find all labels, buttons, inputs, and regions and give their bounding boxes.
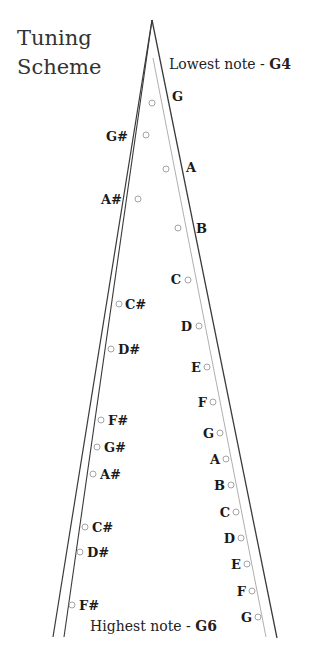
note-label: C# — [125, 297, 146, 312]
tuning-pin-d-sharp: D# — [108, 342, 140, 357]
tuning-pin-c: C — [171, 272, 191, 287]
tuning-pin-c-sharp: C# — [116, 297, 146, 312]
lowest-note-value: G4 — [269, 56, 291, 72]
tuning-pin-c: C — [220, 505, 239, 520]
tuning-pin-c-sharp: C# — [82, 520, 113, 535]
tuning-pin-a-sharp: A# — [100, 192, 141, 207]
note-label: F — [198, 395, 208, 410]
highest-note-caption: Highest note - G6 — [90, 618, 217, 634]
tuning-pin-f-sharp: F# — [98, 413, 128, 428]
pin-circle-icon — [82, 524, 88, 530]
pin-circle-icon — [228, 482, 234, 488]
note-label: D — [181, 319, 192, 334]
tuning-pin-b: B — [214, 478, 234, 493]
title-line-1: Tuning — [17, 26, 92, 50]
right-inner-string-line — [153, 58, 266, 637]
pin-circle-icon — [69, 602, 75, 608]
highest-note-value: G6 — [195, 618, 217, 634]
note-label: F# — [108, 413, 128, 428]
note-label: A — [185, 160, 197, 175]
pin-circle-icon — [185, 277, 191, 283]
note-label: F# — [79, 598, 99, 613]
note-label: A# — [100, 192, 122, 207]
lowest-note-caption: Lowest note - G4 — [169, 56, 291, 72]
tuning-pin-a: A — [163, 160, 197, 175]
tuning-scheme-diagram: Tuning Scheme Lowest note - G4 GG#AA#BCC… — [0, 0, 315, 659]
pin-circle-icon — [244, 561, 250, 567]
pin-circle-icon — [217, 430, 223, 436]
pin-circle-icon — [233, 509, 239, 515]
note-label: D# — [87, 545, 109, 560]
pin-circle-icon — [116, 301, 122, 307]
tuning-pin-e: E — [191, 360, 210, 375]
tuning-pin-a: A — [209, 452, 229, 467]
note-label: G# — [106, 129, 128, 144]
note-label: A — [209, 452, 221, 467]
tuning-pin-e: E — [231, 557, 250, 572]
tuning-pin-f: F — [198, 395, 216, 410]
tuning-pin-g: G — [203, 426, 223, 441]
pin-circle-icon — [223, 456, 229, 462]
note-label: G# — [104, 440, 126, 455]
highest-note-prefix: Highest note - — [90, 618, 195, 634]
pin-circle-icon — [77, 549, 83, 555]
note-label: C — [171, 272, 181, 287]
note-label: B — [196, 221, 207, 236]
pin-circle-icon — [108, 346, 114, 352]
tuning-pin-d: D — [224, 531, 244, 546]
note-label: E — [191, 360, 201, 375]
tuning-pin-a-sharp: A# — [90, 467, 121, 482]
lowest-note-prefix: Lowest note - — [169, 56, 269, 72]
tuning-pin-d: D — [181, 319, 202, 334]
pin-circle-icon — [143, 132, 149, 138]
pin-circle-icon — [255, 614, 261, 620]
tuning-pin-f: F — [237, 584, 255, 599]
pin-circle-icon — [210, 399, 216, 405]
tuning-pin-g-sharp: G# — [106, 129, 149, 144]
pin-circle-icon — [135, 196, 141, 202]
note-label: C# — [92, 520, 113, 535]
pin-circle-icon — [90, 471, 96, 477]
pin-circle-icon — [249, 588, 255, 594]
pin-circle-icon — [196, 323, 202, 329]
note-label: D# — [118, 342, 140, 357]
pin-circle-icon — [175, 225, 181, 231]
tuning-pin-d-sharp: D# — [77, 545, 109, 560]
right-outer-string-line — [152, 20, 277, 638]
tuning-pin-b: B — [175, 221, 207, 236]
pin-circle-icon — [204, 364, 210, 370]
tuning-pin-g: G — [241, 610, 261, 625]
note-label: B — [214, 478, 225, 493]
note-label: F — [237, 584, 247, 599]
note-label: G — [172, 89, 183, 104]
pin-circle-icon — [238, 535, 244, 541]
note-label: A# — [99, 467, 121, 482]
pin-circle-icon — [94, 444, 100, 450]
pin-circle-icon — [149, 100, 155, 106]
note-label: G — [241, 610, 252, 625]
pin-circle-icon — [163, 166, 169, 172]
diagram-canvas: Tuning Scheme Lowest note - G4 GG#AA#BCC… — [0, 0, 315, 659]
tuning-pin-g-sharp: G# — [94, 440, 126, 455]
tuning-pin-f-sharp: F# — [69, 598, 99, 613]
note-label: D — [224, 531, 235, 546]
note-label: C — [220, 505, 230, 520]
note-label: E — [231, 557, 241, 572]
pin-circle-icon — [98, 417, 104, 423]
title-line-2: Scheme — [17, 55, 101, 79]
note-label: G — [203, 426, 214, 441]
